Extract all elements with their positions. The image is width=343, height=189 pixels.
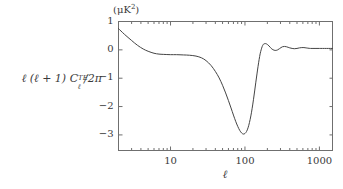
x-tick-label: 1000 (299, 155, 339, 166)
y-tick-label: 0 (90, 43, 114, 54)
y-tick-label: −2 (90, 100, 114, 111)
y-tick-label: −1 (90, 71, 114, 82)
tick-marks (119, 22, 333, 151)
plot-frame (119, 22, 333, 151)
y-axis-label-subscript: ℓ (78, 81, 81, 94)
y-unit-text: μK2 (117, 4, 135, 15)
y-unit-label: (μK2) (113, 3, 139, 15)
data-curve-te (119, 29, 333, 134)
x-tick-label: 10 (151, 155, 191, 166)
chart-figure: (μK2) ℓ (ℓ + 1) CTEℓ/2π ℓ 10−1−2−3 10100… (0, 0, 343, 189)
y-tick-label: −3 (90, 128, 114, 139)
y-axis-label-lead: ℓ (ℓ + 1) (22, 72, 70, 85)
x-tick-label: 100 (225, 155, 265, 166)
y-axis-label-c: C (70, 72, 78, 85)
y-axis-label: ℓ (ℓ + 1) CTEℓ/2π (6, 72, 102, 85)
x-axis-label: ℓ (118, 168, 332, 181)
y-tick-label: 1 (90, 15, 114, 26)
